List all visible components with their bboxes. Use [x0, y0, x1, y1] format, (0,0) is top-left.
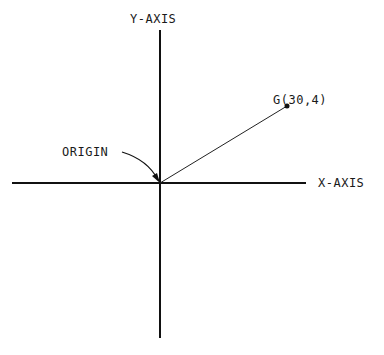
origin-label: ORIGIN [62, 145, 108, 159]
vector-line [160, 106, 287, 183]
x-axis-label: X-AXIS [318, 176, 364, 190]
coordinate-diagram: Y-AXIS X-AXIS ORIGIN G(30,4) [0, 0, 384, 355]
origin-arrowhead-icon [152, 173, 160, 183]
point-g-label: G(30,4) [273, 93, 327, 107]
y-axis-label: Y-AXIS [130, 12, 176, 26]
